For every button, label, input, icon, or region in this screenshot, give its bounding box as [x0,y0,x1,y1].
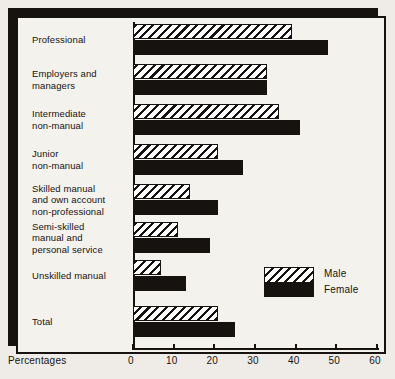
bar-female [133,238,210,253]
bar-male [133,306,218,321]
legend-swatch-box [264,267,314,297]
bar-female [133,160,243,175]
category-label-line: non-manual [32,120,127,132]
x-axis-tick [132,344,134,350]
x-axis-caption: Percentages [8,355,66,366]
legend-label-male: Male [324,268,346,279]
bar-group-row [133,142,377,180]
bar-group-row [133,182,377,220]
bar-male [133,24,292,39]
category-label-line: manual and [32,232,127,244]
category-label-line: managers [32,80,127,92]
bar-male [133,104,279,119]
category-label-line: Total [32,316,127,328]
x-axis-tick-label: 30 [247,355,259,366]
x-axis-tick [254,344,256,350]
x-axis-tick-label: 40 [288,355,300,366]
x-axis-tick-label: 60 [369,355,381,366]
bar-female [133,200,218,215]
x-axis-tick-label: 50 [329,355,341,366]
category-label-line: Intermediate [32,108,127,120]
category-label-line: Unskilled manual [32,270,127,282]
category-labels-column: ProfessionalEmployers andmanagersInterme… [18,22,131,346]
bar-female [133,322,235,337]
category-label: Professional [32,34,127,46]
category-label: Skilled manualand own accountnon-profess… [32,183,127,218]
legend-label-female: Female [324,284,359,295]
category-label: Juniornon-manual [32,148,127,171]
bar-female [133,276,186,291]
bar-female [133,40,328,55]
category-label-line: Skilled manual [32,183,127,195]
bar-female [133,80,267,95]
category-label-line: non-professional [32,206,127,218]
chart-plate: ProfessionalEmployers andmanagersInterme… [16,16,386,354]
category-label: Unskilled manual [32,270,127,282]
category-label: Employers andmanagers [32,68,127,91]
x-axis-tick-label: 0 [128,355,134,366]
bar-male [133,144,218,159]
bar-group-row [133,102,377,140]
x-axis-tick [173,344,175,350]
bar-female [133,120,300,135]
bar-group-row [133,22,377,60]
category-label-line: Junior [32,148,127,160]
category-label-line: and own account [32,194,127,206]
category-label: Intermediatenon-manual [32,108,127,131]
bar-group-row [133,220,377,258]
category-label: Semi-skilledmanual andpersonal service [32,221,127,256]
bar-group-row [133,62,377,100]
x-axis-line [133,348,379,350]
category-label-line: Semi-skilled [32,221,127,233]
x-axis-tick [376,344,378,350]
bar-male [133,64,267,79]
legend: Male Female [264,267,374,299]
bar-group-row [133,304,377,342]
x-axis-tick [335,344,337,350]
x-axis-tick [213,344,215,350]
x-axis-tick [295,344,297,350]
category-label-line: Professional [32,34,127,46]
legend-swatch-female [265,282,313,296]
x-axis-tick-label: 10 [166,355,178,366]
category-label-line: personal service [32,244,127,256]
category-label: Total [32,316,127,328]
bar-male [133,184,190,199]
bar-male [133,222,178,237]
category-label-line: non-manual [32,160,127,172]
x-axis-tick-label: 20 [207,355,219,366]
category-label-line: Employers and [32,68,127,80]
legend-swatch-male [265,268,313,282]
bar-male [133,260,161,275]
